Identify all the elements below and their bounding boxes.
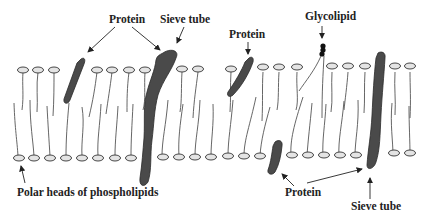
membrane-diagram: Protein Sieve tube Glycolipid Protein Po… xyxy=(0,0,430,221)
lower-tails xyxy=(14,97,410,156)
glycolipid xyxy=(299,43,326,118)
label-glycolipid: Glycolipid xyxy=(305,11,356,23)
label-polar-heads: Polar heads of phospholipids xyxy=(17,187,158,199)
protein-mid-top xyxy=(227,57,253,96)
lower-polar-heads xyxy=(14,150,416,161)
label-sieve-tube-bottom: Sieve tube xyxy=(351,201,401,213)
protein-bottom xyxy=(268,141,282,175)
upper-tails xyxy=(22,72,410,121)
label-protein-bottom: Protein xyxy=(285,187,321,199)
sieve-tube-right xyxy=(367,52,385,168)
annotation-arrows xyxy=(21,26,370,199)
label-protein-top-left: Protein xyxy=(109,14,145,26)
label-protein-top-right: Protein xyxy=(229,29,265,41)
label-sieve-tube-top: Sieve tube xyxy=(160,14,210,26)
protein-left-small xyxy=(64,58,85,103)
